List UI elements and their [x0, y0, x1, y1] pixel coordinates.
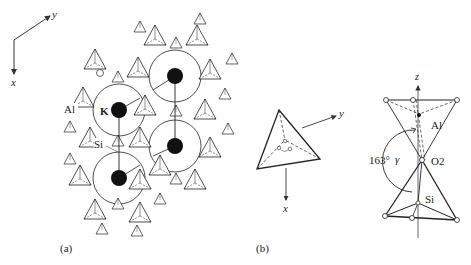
panel-a-axes: y x	[10, 8, 57, 88]
z-axis-label: z	[414, 71, 419, 82]
axis-x-label: x	[10, 76, 16, 88]
atom-label-k: K	[100, 105, 109, 117]
panel-c-linkage: z 163° γ Al O2 Si	[369, 71, 460, 238]
aluminosilicate-framework: Al K Si	[64, 13, 238, 236]
panel-b-axis-y-label: y	[338, 107, 344, 119]
angle-value: 163°	[369, 154, 390, 166]
axis-y-label: y	[51, 8, 57, 20]
panel-a-label: (a)	[60, 242, 73, 255]
angle-symbol: γ	[395, 153, 400, 165]
panel-b-axis-x-label: x	[282, 202, 288, 214]
panel-b-label: (b)	[256, 242, 269, 255]
panel-b-tetrahedron: y x	[257, 107, 344, 214]
figure-canvas: y x	[0, 0, 471, 265]
atom-label-si-c: Si	[425, 193, 434, 205]
atom-label-al-c: Al	[431, 119, 442, 131]
atom-label-al: Al	[64, 103, 75, 115]
atom-label-si: Si	[94, 138, 103, 150]
atom-label-o2: O2	[431, 155, 444, 167]
